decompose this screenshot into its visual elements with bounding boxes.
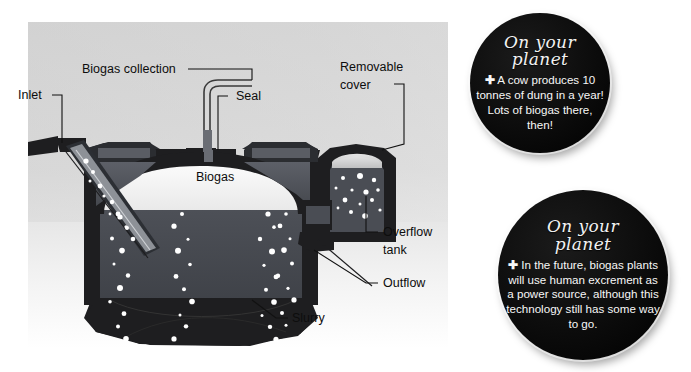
- label-overflow-tank-line2: tank: [383, 243, 407, 257]
- illustration-stage: Inlet Biogas collection Seal Removable c…: [0, 0, 691, 372]
- note-text: A cow produces 10 tonnes of dung in a ye…: [476, 73, 604, 130]
- note-body-cow-dung: ✚ A cow produces 10 tonnes of dung in a …: [470, 73, 610, 132]
- plus-icon: ✚: [508, 258, 518, 271]
- note-body-human-excrement: ✚ In the future, biogas plants will use …: [498, 258, 668, 332]
- plus-icon: ✚: [485, 73, 495, 86]
- label-seal: Seal: [236, 89, 261, 103]
- note-bubble-human-excrement: On your planet ✚ In the future, biogas p…: [498, 190, 668, 360]
- label-inlet: Inlet: [18, 88, 42, 102]
- label-slurry: Slurry: [292, 311, 325, 325]
- label-biogas-collection: Biogas collection: [82, 62, 176, 76]
- note-title-human-excrement: On your planet: [547, 218, 619, 253]
- label-removable-cover-line2: cover: [340, 78, 371, 92]
- note-title-line2: planet: [547, 236, 619, 253]
- note-title-line2: planet: [504, 51, 576, 68]
- note-bubble-cow-dung: On your planet ✚ A cow produces 10 tonne…: [470, 13, 610, 153]
- label-outflow: Outflow: [383, 276, 425, 290]
- label-removable-cover-line1: Removable: [340, 60, 403, 74]
- label-overflow-tank-line1: Overflow: [383, 225, 432, 239]
- label-biogas-chamber: Biogas: [196, 170, 234, 184]
- note-text: In the future, biogas plants will use hu…: [506, 258, 659, 330]
- note-title-cow-dung: On your planet: [504, 34, 576, 69]
